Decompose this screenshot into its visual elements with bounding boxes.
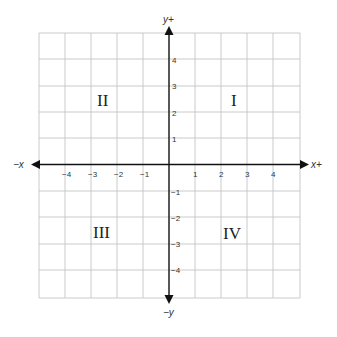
svg-text:−4: −4 — [62, 170, 72, 179]
arrow-down-icon — [165, 295, 174, 304]
label-y-pos: y+ — [162, 14, 174, 25]
arrow-right-icon — [300, 160, 309, 169]
axes — [40, 30, 303, 299]
svg-text:2: 2 — [219, 170, 224, 179]
svg-text:4: 4 — [172, 56, 177, 65]
svg-text:1: 1 — [172, 135, 177, 144]
label-x-neg: −x — [13, 159, 25, 170]
quadrant-III: III — [93, 223, 110, 242]
label-y-neg: −y — [163, 307, 175, 318]
svg-text:−2: −2 — [114, 170, 124, 179]
svg-text:−3: −3 — [171, 240, 181, 249]
arrow-left-icon — [31, 160, 40, 169]
y-tick-labels: 4 3 2 1 −1 −2 −3 −4 — [171, 56, 181, 275]
quadrant-II: II — [97, 91, 109, 110]
svg-text:−1: −1 — [171, 188, 181, 197]
quadrant-I: I — [231, 91, 237, 110]
svg-text:1: 1 — [193, 170, 198, 179]
coordinate-plane: x+ −x y+ −y −4 −3 −2 −1 1 2 3 4 4 3 2 1 … — [0, 0, 337, 337]
quadrant-labels: I II III IV — [93, 91, 242, 243]
arrow-up-icon — [165, 26, 174, 35]
svg-text:2: 2 — [172, 109, 177, 118]
svg-text:3: 3 — [245, 170, 250, 179]
axis-labels: x+ −x y+ −y — [13, 14, 322, 318]
svg-text:−4: −4 — [171, 266, 181, 275]
svg-text:−3: −3 — [88, 170, 98, 179]
quadrant-IV: IV — [223, 224, 242, 243]
svg-text:4: 4 — [271, 170, 276, 179]
svg-text:−2: −2 — [171, 214, 181, 223]
svg-text:−1: −1 — [140, 170, 150, 179]
label-x-pos: x+ — [310, 159, 322, 170]
svg-text:3: 3 — [172, 82, 177, 91]
